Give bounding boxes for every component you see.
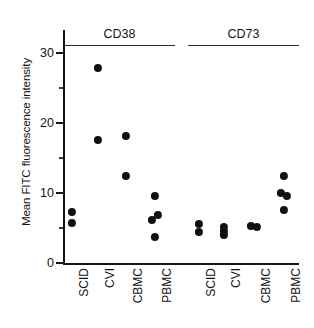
data-point: [195, 220, 203, 228]
x-category-label: SCID: [77, 268, 91, 297]
y-axis-title: Mean FITC fluorescence intensity: [20, 22, 38, 262]
x-category-label: CVI: [229, 268, 243, 288]
x-category-label: CBMC: [259, 268, 273, 303]
x-category-label: PBMC: [160, 268, 174, 303]
y-tick-major: [56, 262, 63, 264]
y-axis-line: [63, 30, 65, 263]
x-category-label: CBMC: [131, 268, 145, 303]
plot-area: 0102030 CD38CD73 SCIDCVICBMCPBMCSCIDCVIC…: [63, 30, 299, 263]
y-tick-minor: [59, 227, 64, 228]
y-tick-label: 20: [40, 116, 54, 130]
y-tick-label: 30: [40, 46, 54, 60]
y-tick-major: [56, 192, 63, 194]
data-point: [68, 219, 76, 227]
data-point: [151, 233, 159, 241]
x-category-label: CVI: [103, 268, 117, 288]
data-point: [68, 208, 76, 216]
group-header-label: CD73: [228, 27, 260, 41]
data-point: [280, 206, 288, 214]
group-header-rule: [188, 45, 299, 47]
figure-scatter-plot: Mean FITC fluorescence intensity 0102030…: [0, 0, 314, 328]
x-category-label: PBMC: [289, 268, 303, 303]
data-point: [220, 231, 228, 239]
group-header-label: CD38: [104, 27, 136, 41]
data-point: [151, 192, 159, 200]
y-tick-major: [56, 122, 63, 124]
data-point: [283, 192, 291, 200]
data-point: [122, 172, 130, 180]
x-category-label: SCID: [204, 268, 218, 297]
data-point: [94, 64, 102, 72]
y-tick-label: 0: [47, 256, 54, 270]
y-tick-major: [56, 52, 63, 54]
y-tick-minor: [59, 157, 64, 158]
data-point: [253, 223, 261, 231]
y-tick-minor: [59, 87, 64, 88]
data-point: [148, 216, 156, 224]
group-header-rule: [64, 45, 175, 47]
data-point: [94, 136, 102, 144]
data-point: [122, 132, 130, 140]
x-axis-line: [63, 263, 299, 265]
data-point: [195, 228, 203, 236]
data-point: [280, 172, 288, 180]
y-tick-label: 10: [40, 186, 54, 200]
